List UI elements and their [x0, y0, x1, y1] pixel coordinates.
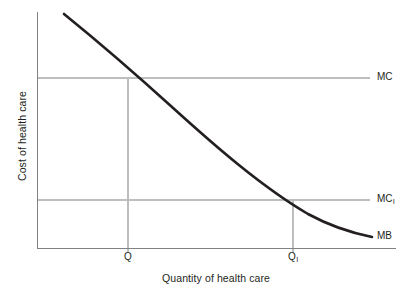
mc-innovation-label-text: MC [377, 193, 393, 204]
x-tick-label-q-innovation: QI [283, 251, 303, 262]
x-tick-label-q-text: Q [124, 251, 132, 262]
chart-plot-area [0, 0, 416, 297]
mc-innovation-label-subscript: I [393, 197, 395, 206]
x-tick-label-q-innovation-text: Q [288, 251, 296, 262]
mb-curve [64, 14, 372, 237]
mb-label-text: MB [377, 230, 392, 241]
x-tick-label-q: Q [118, 251, 138, 262]
mc-label: MC [377, 71, 393, 82]
y-axis-title: Cost of health care [16, 76, 28, 196]
mb-label: MB [377, 230, 392, 241]
x-axis-title: Quantity of health care [37, 272, 395, 284]
mc-innovation-label: MCI [377, 193, 395, 204]
health-care-mb-mc-chart: Cost of health care Quantity of health c… [0, 0, 416, 297]
mc-label-text: MC [377, 71, 393, 82]
x-tick-label-q-innovation-subscript: I [296, 255, 298, 264]
